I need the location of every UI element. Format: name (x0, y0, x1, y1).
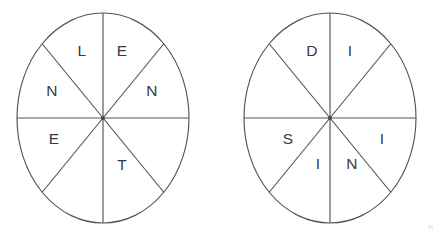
wheel-right-letter-bottom-right: N (346, 155, 357, 172)
corner-speck (428, 225, 433, 229)
wheel-left-letter-right-upper: N (146, 82, 157, 99)
left-wheel-hub (101, 116, 105, 120)
wheel-right-letter-top-right: I (348, 42, 353, 59)
wheel-left-letter-bottom-right: T (117, 156, 127, 173)
right-letter-wheel: IINISD (244, 13, 416, 223)
right-wheel-hub (328, 116, 332, 120)
wheel-left-letter-left-lower: E (49, 130, 60, 147)
wheel-right-letter-bottom-left: I (316, 155, 321, 172)
wheel-left-letter-top-left: L (78, 42, 87, 59)
wheel-left-letter-top-right: E (117, 42, 128, 59)
left-letter-wheel: ENTENL (17, 13, 189, 223)
wheel-right-letter-right-lower: I (380, 130, 385, 147)
wheel-left-letter-left-upper: N (46, 82, 57, 99)
wheel-right-letter-top-left: D (306, 42, 317, 59)
wheel-right-letter-left-lower: S (283, 130, 294, 147)
letter-wheel-figure: ENTENL IINISD (0, 0, 438, 236)
